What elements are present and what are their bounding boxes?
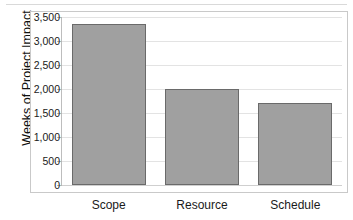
y-axis-tick-label: 3,500 — [14, 12, 60, 22]
x-axis-label-schedule: Schedule — [249, 199, 342, 212]
y-axis-tick-label: 3,000 — [14, 36, 60, 46]
scan-artifact — [0, 0, 353, 7]
y-axis-tick-label: 1,000 — [14, 132, 60, 142]
y-axis-tick-label: 1,500 — [14, 108, 60, 118]
page-rule-line — [6, 4, 347, 5]
bar-resource — [165, 89, 239, 185]
x-axis-label-resource: Resource — [155, 199, 248, 212]
y-axis-tick-label: 0 — [14, 180, 60, 190]
bar-chart: Weeks of Project Impact 05001,0001,5002,… — [0, 9, 353, 220]
gridline — [62, 17, 342, 18]
ghost-caption-text — [36, 0, 266, 4]
bar-scope — [72, 24, 146, 185]
y-axis-tick-label: 2,000 — [14, 84, 60, 94]
x-axis-label-scope: Scope — [62, 199, 155, 212]
gridline — [62, 185, 342, 186]
y-axis-tick-label: 500 — [14, 156, 60, 166]
y-axis-tick-label: 2,500 — [14, 60, 60, 70]
plot-area — [62, 17, 342, 185]
bar-schedule — [258, 103, 332, 185]
